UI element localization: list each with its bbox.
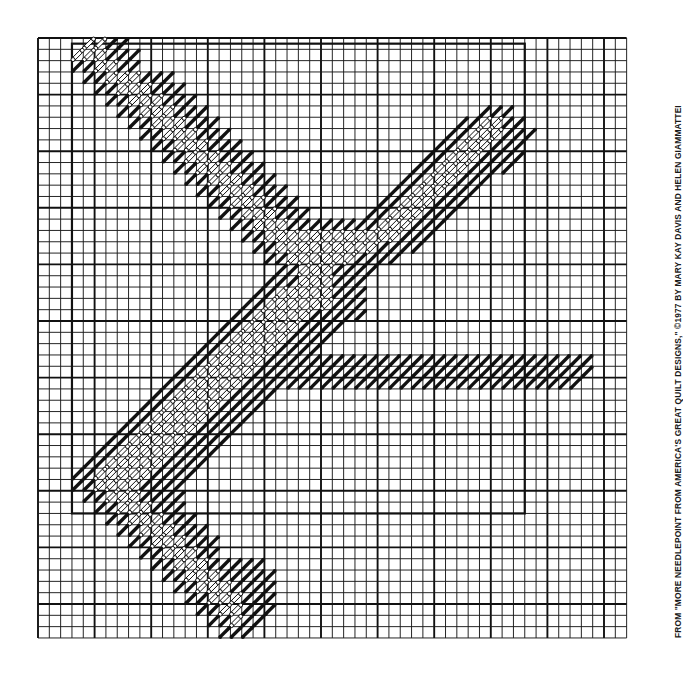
needlepoint-chart-canvas: [0, 0, 683, 673]
credit-block: FROM "MORE NEEDLEPOINT FROM AMERICA'S GR…: [657, 0, 683, 673]
chart-svg: [0, 0, 683, 673]
paper-background: [0, 0, 683, 673]
credit-line: FROM "MORE NEEDLEPOINT FROM AMERICA'S GR…: [673, 105, 683, 638]
